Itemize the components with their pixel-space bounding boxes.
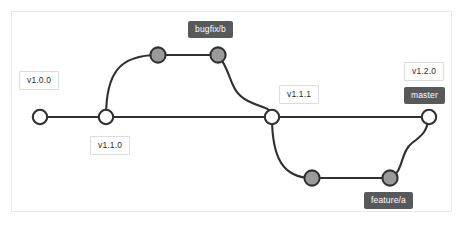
tag-label-v1-2-0[interactable]: v1.2.0 (404, 62, 444, 81)
diagram-canvas (11, 11, 452, 212)
branch-label-master[interactable]: master (404, 87, 445, 104)
tag-label-v1-1-0[interactable]: v1.1.0 (90, 136, 130, 155)
branch-label-bugfix-b[interactable]: bugfix/b (188, 21, 233, 38)
tag-label-v1-0-0[interactable]: v1.0.0 (19, 71, 59, 90)
branch-label-feature-a[interactable]: feature/a (364, 192, 413, 209)
git-graph-diagram: v1.0.0 v1.1.0 bugfix/b v1.1.1 v1.2.0 mas… (0, 0, 465, 228)
tag-label-v1-1-1[interactable]: v1.1.1 (279, 85, 319, 104)
